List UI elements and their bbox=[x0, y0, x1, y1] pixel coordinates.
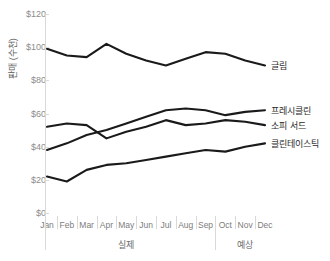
x-axis-divider bbox=[176, 216, 177, 229]
series-label: 소피 서드 bbox=[271, 119, 306, 132]
x-axis-divider bbox=[97, 216, 98, 229]
y-axis-tick-mark bbox=[45, 213, 49, 214]
x-axis-divider bbox=[57, 216, 58, 229]
x-axis-divider bbox=[77, 216, 78, 229]
x-axis-divider bbox=[116, 216, 117, 229]
x-axis-group-label: 실제 bbox=[118, 238, 134, 251]
x-axis-divider bbox=[136, 216, 137, 229]
x-axis-tick: Jun bbox=[139, 220, 153, 230]
series-line bbox=[47, 44, 265, 66]
series-line bbox=[47, 109, 265, 150]
series-label: 글림 bbox=[271, 59, 287, 72]
x-axis-group-label: 예상 bbox=[237, 238, 253, 251]
y-axis-tick: $40 bbox=[8, 142, 46, 152]
group-divider bbox=[215, 216, 216, 250]
x-axis-tick: Dec bbox=[257, 220, 272, 230]
y-axis-tick: $100 bbox=[8, 42, 46, 52]
y-axis-line bbox=[45, 14, 46, 213]
group-divider-start bbox=[45, 216, 46, 250]
plot-area bbox=[47, 14, 265, 213]
y-axis-tick: $120 bbox=[8, 9, 46, 19]
y-axis-tick: $20 bbox=[8, 175, 46, 185]
x-axis-tick: May bbox=[118, 220, 134, 230]
x-axis-tick: Feb bbox=[59, 220, 74, 230]
y-axis-tick: $0 bbox=[8, 208, 46, 218]
x-axis-tick: Aug bbox=[178, 220, 193, 230]
series-lines bbox=[47, 14, 265, 213]
x-axis-tick: Jan bbox=[40, 220, 54, 230]
x-axis-divider bbox=[255, 216, 256, 229]
x-axis-tick: Sep bbox=[198, 220, 213, 230]
series-label: 프레시클린 bbox=[271, 104, 311, 117]
x-axis-divider bbox=[196, 216, 197, 229]
series-line bbox=[47, 120, 265, 138]
x-axis-tick: Apr bbox=[100, 220, 113, 230]
x-axis-tick: Mar bbox=[79, 220, 94, 230]
series-label: 클린테이스틱 bbox=[271, 137, 319, 150]
x-axis-tick: Nov bbox=[238, 220, 253, 230]
x-axis-divider bbox=[156, 216, 157, 229]
x-axis-tick: Oct bbox=[219, 220, 232, 230]
series-line bbox=[47, 143, 265, 181]
sales-forecast-line-chart: 판매 (수천) $0$20$40$60$80$100$120 JanFebMar… bbox=[0, 0, 330, 261]
x-axis-divider bbox=[235, 216, 236, 229]
x-axis-tick: Jul bbox=[160, 220, 171, 230]
y-axis-tick: $60 bbox=[8, 109, 46, 119]
y-axis-tick: $80 bbox=[8, 75, 46, 85]
